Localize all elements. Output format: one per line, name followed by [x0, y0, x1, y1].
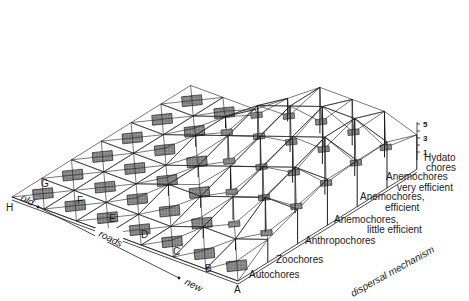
road-label-f: F: [77, 195, 83, 206]
dispersal-label-anemo-eff-2: efficient: [385, 202, 420, 213]
road-label-h: H: [6, 202, 13, 213]
new-label: new: [183, 276, 205, 294]
dispersal-surface-diagram: 5 3 1 H G F E D C B A roads old new Auto…: [0, 0, 469, 301]
surface-mesh: [12, 85, 417, 281]
dispersal-label-anthropochores: Anthropochores: [305, 235, 376, 246]
dispersal-axis-label: dispersal mechanism: [349, 244, 436, 299]
road-label-c: C: [173, 246, 180, 257]
dispersal-label-anemo-very-2: very efficient: [397, 182, 453, 193]
road-label-d: D: [141, 229, 148, 240]
old-arrow-icon: [37, 206, 40, 209]
tick-5: 5: [423, 120, 428, 129]
dispersal-label-hydato-2: chores: [426, 162, 456, 173]
dispersal-label-zoochores: Zoochores: [276, 254, 323, 265]
dispersal-label-autochores: Autochores: [249, 269, 300, 280]
road-label-a: A: [234, 284, 241, 295]
tick-3: 3: [423, 134, 428, 143]
new-arrow-icon: [178, 277, 181, 280]
road-label-b: B: [205, 263, 212, 274]
dispersal-label-anemo-little-2: little efficient: [367, 224, 422, 235]
road-label-g: G: [41, 178, 49, 189]
road-label-e: E: [109, 213, 116, 224]
dispersal-labels: Autochores Zoochores Anthropochores Anem…: [249, 152, 456, 299]
